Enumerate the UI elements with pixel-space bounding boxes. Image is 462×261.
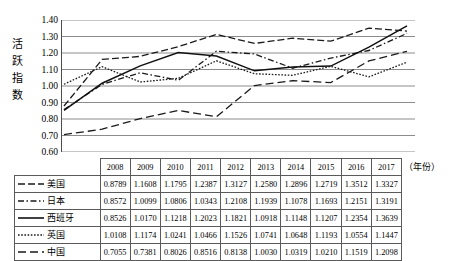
table-cell-value: 1.0210 <box>311 244 341 261</box>
table-cell-value: 1.0108 <box>100 227 130 244</box>
legend-line-style-icon <box>18 248 44 256</box>
legend-line-style-icon <box>18 231 44 239</box>
data-table: 2008200920102011201220132014201520162017… <box>14 158 402 261</box>
data-table-container: 2008200920102011201220132014201520162017… <box>14 158 402 261</box>
y-axis-title-char: 活 <box>6 36 28 53</box>
table-cell-value: 0.8026 <box>160 244 190 261</box>
table-cell-value: 1.1218 <box>160 210 190 227</box>
table-cell-value: 1.1608 <box>130 176 160 193</box>
y-axis-tick-label: 1.20 <box>30 48 58 58</box>
table-cell-value: 1.1447 <box>371 227 401 244</box>
table-cell-value: 1.3327 <box>371 176 401 193</box>
table-row: 美国0.87891.16081.17951.23871.31271.25801.… <box>15 176 402 193</box>
legend-cell: 中国 <box>15 244 101 261</box>
y-axis-tick-label: 0.80 <box>30 114 58 124</box>
table-cell-value: 1.3191 <box>371 193 401 210</box>
table-row: 中国0.70550.73810.80260.85160.81381.00301.… <box>15 244 402 261</box>
y-axis-title-char: 数 <box>6 87 28 104</box>
table-cell-value: 1.1207 <box>311 210 341 227</box>
table-cell-value: 1.0099 <box>130 193 160 210</box>
table-cell-value: 0.8789 <box>100 176 130 193</box>
legend-series-label: 中国 <box>47 248 65 257</box>
table-cell-value: 0.8138 <box>221 244 251 261</box>
table-cell-value: 0.8516 <box>190 244 220 261</box>
table-cell-value: 1.1526 <box>221 227 251 244</box>
legend-series-label: 西班牙 <box>47 214 74 223</box>
data-table-body: 2008200920102011201220132014201520162017… <box>15 159 402 261</box>
table-column-header: 2015 <box>311 159 341 176</box>
table-column-header: 2008 <box>100 159 130 176</box>
table-column-header: 2012 <box>221 159 251 176</box>
y-axis-tick-labels: 1.401.301.201.101.000.900.800.700.60 <box>30 12 58 160</box>
table-column-header: 2014 <box>281 159 311 176</box>
table-cell-value: 1.0170 <box>130 210 160 227</box>
table-cell-value: 1.1078 <box>281 193 311 210</box>
table-cell-value: 1.2108 <box>221 193 251 210</box>
table-cell-value: 1.1148 <box>281 210 311 227</box>
table-cell-value: 1.0554 <box>341 227 371 244</box>
table-column-header: 2013 <box>251 159 281 176</box>
table-cell-value: 0.8572 <box>100 193 130 210</box>
table-row: 日本0.85721.00991.08061.03431.21081.19391.… <box>15 193 402 210</box>
legend-series-label: 美国 <box>47 180 65 189</box>
table-cell-value: 1.1174 <box>130 227 160 244</box>
table-cell-value: 1.0918 <box>251 210 281 227</box>
table-cell-value: 1.1519 <box>341 244 371 261</box>
table-cell-value: 1.3639 <box>371 210 401 227</box>
table-cell-value: 1.1693 <box>311 193 341 210</box>
table-cell-value: 0.8526 <box>100 210 130 227</box>
table-cell-value: 1.0806 <box>160 193 190 210</box>
table-cell-value: 1.0030 <box>251 244 281 261</box>
table-cell-value: 1.0466 <box>190 227 220 244</box>
table-corner-cell <box>15 159 101 176</box>
series-lines <box>62 20 415 152</box>
y-axis-tick-label: 1.30 <box>30 32 58 42</box>
table-column-header: 2011 <box>190 159 220 176</box>
y-axis-tick-label: 1.10 <box>30 65 58 75</box>
table-header-row: 2008200920102011201220132014201520162017 <box>15 159 402 176</box>
table-cell-value: 1.1193 <box>311 227 341 244</box>
y-axis-tick-label: 1.40 <box>30 15 58 25</box>
table-cell-value: 1.3512 <box>341 176 371 193</box>
legend-line-style-icon <box>18 197 44 205</box>
legend-series-label: 日本 <box>47 197 65 206</box>
legend-line-style-icon <box>18 180 44 188</box>
y-axis-title-char: 指 <box>6 70 28 87</box>
table-cell-value: 1.1821 <box>221 210 251 227</box>
table-cell-value: 1.1795 <box>160 176 190 193</box>
legend-series-label: 英国 <box>47 231 65 240</box>
table-column-header: 2010 <box>160 159 190 176</box>
table-cell-value: 1.0319 <box>281 244 311 261</box>
table-cell-value: 1.0648 <box>281 227 311 244</box>
table-row: 西班牙0.85261.01701.12181.20231.18211.09181… <box>15 210 402 227</box>
table-cell-value: 1.0241 <box>160 227 190 244</box>
table-column-header: 2009 <box>130 159 160 176</box>
legend-cell: 西班牙 <box>15 210 101 227</box>
line-chart: 1.401.301.201.101.000.900.800.700.60 <box>30 12 430 160</box>
series-line <box>64 33 407 109</box>
table-cell-value: 1.2719 <box>311 176 341 193</box>
table-cell-value: 0.7055 <box>100 244 130 261</box>
table-cell-value: 1.2387 <box>190 176 220 193</box>
table-cell-value: 1.2023 <box>190 210 220 227</box>
y-axis-tick-label: 0.70 <box>30 131 58 141</box>
table-cell-value: 0.7381 <box>130 244 160 261</box>
y-axis-title: 活 跃 指 数 <box>6 36 28 104</box>
plot-area <box>61 20 415 152</box>
table-column-header: 2016 <box>341 159 371 176</box>
table-cell-value: 1.2580 <box>251 176 281 193</box>
legend-cell: 英国 <box>15 227 101 244</box>
table-cell-value: 1.2151 <box>341 193 371 210</box>
table-cell-value: 1.2098 <box>371 244 401 261</box>
y-axis-tick-label: 1.00 <box>30 81 58 91</box>
series-line <box>64 26 407 110</box>
table-cell-value: 1.2896 <box>281 176 311 193</box>
table-column-header: 2017 <box>371 159 401 176</box>
table-row: 英国1.01081.11741.02411.04661.15261.07411.… <box>15 227 402 244</box>
table-cell-value: 1.2354 <box>341 210 371 227</box>
table-cell-value: 1.3127 <box>221 176 251 193</box>
x-axis-unit-note: （年份） <box>404 160 440 173</box>
legend-cell: 日本 <box>15 193 101 210</box>
table-cell-value: 1.0741 <box>251 227 281 244</box>
table-cell-value: 1.0343 <box>190 193 220 210</box>
